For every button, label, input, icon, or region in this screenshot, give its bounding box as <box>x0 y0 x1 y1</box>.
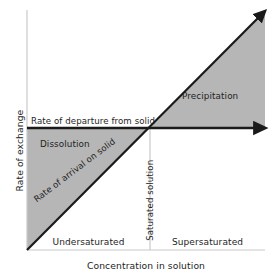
solubility-diagram: Rate of exchange Concentration in soluti… <box>0 0 275 278</box>
x-axis-title: Concentration in solution <box>27 261 265 270</box>
region-precipitation-label: Precipitation <box>182 92 238 101</box>
zone-supersaturated-label: Supersaturated <box>150 238 265 247</box>
region-dissolution-label: Dissolution <box>40 140 90 149</box>
rate-of-departure-label: Rate of departure from solid <box>31 117 155 126</box>
y-axis-title: Rate of exchange <box>15 91 24 211</box>
zone-undersaturated-label: Undersaturated <box>27 238 150 247</box>
region-precipitation-fill <box>150 13 265 128</box>
saturated-solution-label: Saturated solution <box>146 150 155 250</box>
